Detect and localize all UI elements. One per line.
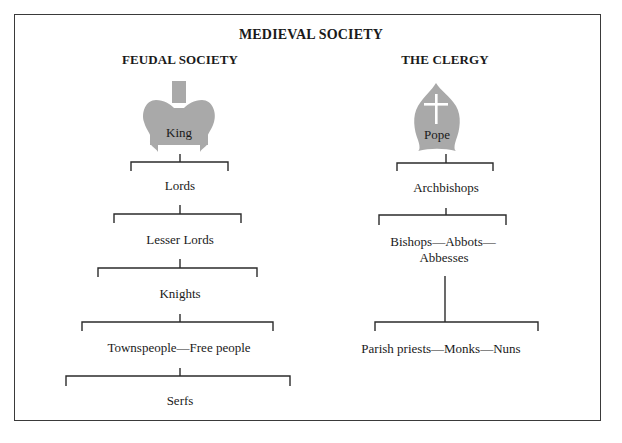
crown-icon: [143, 81, 215, 152]
feudal-level-king: King: [166, 125, 192, 141]
clergy-level-bishops-line2: Abbesses: [419, 250, 468, 266]
clergy-level-parish: Parish priests—Monks—Nuns: [361, 341, 520, 357]
feudal-heading: FEUDAL SOCIETY: [122, 52, 238, 68]
feudal-level-lesser-lords: Lesser Lords: [146, 232, 214, 248]
clergy-level-pope: Pope: [424, 127, 450, 143]
clergy-level-bishops-line1: Bishops—Abbots—: [390, 234, 495, 250]
feudal-level-knights: Knights: [159, 286, 200, 302]
feudal-level-townspeople: Townspeople—Free people: [107, 340, 250, 356]
hierarchy-lines: [0, 0, 622, 443]
page-title: MEDIEVAL SOCIETY: [239, 27, 383, 43]
clergy-heading: THE CLERGY: [401, 52, 488, 68]
feudal-level-serfs: Serfs: [167, 393, 194, 409]
feudal-level-lords: Lords: [165, 178, 195, 194]
clergy-level-archbishops: Archbishops: [413, 180, 479, 196]
